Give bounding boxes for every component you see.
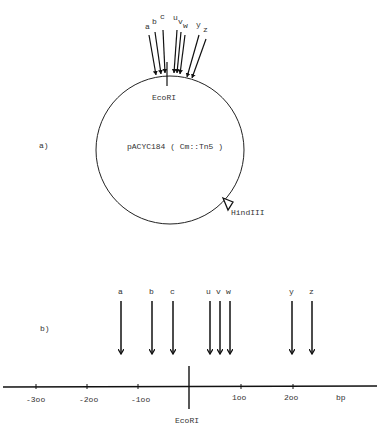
insertion-label-b: b bbox=[152, 18, 157, 26]
origin-ecori-label: EcoRI bbox=[175, 417, 199, 425]
insertion-arrow-w bbox=[180, 35, 185, 74]
plasmid-map bbox=[96, 30, 244, 224]
insertion-arrow-u bbox=[174, 30, 177, 73]
diagram-canvas bbox=[0, 0, 390, 435]
tick-label-minus-200: -2oo bbox=[79, 396, 98, 404]
linear-label-c: c bbox=[170, 288, 175, 296]
insertion-arrow-c bbox=[163, 30, 165, 73]
insertion-arrows-linear bbox=[121, 301, 312, 354]
insertion-arrow-a bbox=[149, 35, 156, 75]
bp-axis bbox=[3, 386, 377, 387]
panel-a-label: a) bbox=[39, 142, 49, 150]
panel-b-label: b) bbox=[40, 325, 50, 333]
insertion-label-y: y bbox=[196, 21, 201, 29]
linear-label-a: a bbox=[118, 288, 123, 296]
linear-label-y: y bbox=[289, 288, 294, 296]
insertion-arrow-b bbox=[155, 32, 161, 74]
plasmid-name: pACYC184 ( Cm::Tn5 ) bbox=[127, 143, 223, 151]
insertion-arrow-y bbox=[187, 35, 199, 77]
ecori-site-label: EcoRI bbox=[152, 94, 176, 102]
insertion-label-c: c bbox=[160, 13, 165, 21]
axis-unit-label: bp bbox=[336, 394, 346, 402]
insertion-label-a: a bbox=[145, 23, 150, 31]
insertion-arrow-z bbox=[192, 39, 206, 78]
linear-label-w: w bbox=[226, 288, 231, 296]
linear-label-v: v bbox=[216, 288, 221, 296]
insertion-arrows-circular bbox=[149, 30, 206, 78]
tick-label-minus-300: -3oo bbox=[26, 396, 45, 404]
linear-label-u: u bbox=[206, 288, 211, 296]
linear-label-b: b bbox=[149, 288, 154, 296]
insertion-label-w: w bbox=[183, 22, 188, 30]
tick-label-100: 1oo bbox=[232, 394, 246, 402]
linear-map bbox=[3, 301, 377, 409]
tick-label-minus-100: -1oo bbox=[131, 396, 150, 404]
tick-label-200: 2oo bbox=[284, 394, 298, 402]
hindiii-site-label: HindIII bbox=[231, 209, 265, 217]
linear-label-z: z bbox=[309, 288, 314, 296]
insertion-label-z: z bbox=[203, 26, 208, 34]
